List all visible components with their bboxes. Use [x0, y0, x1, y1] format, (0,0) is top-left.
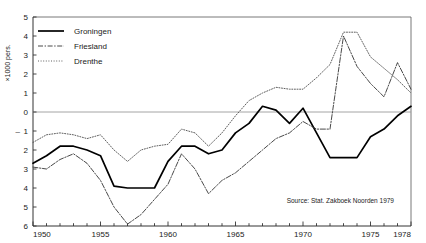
y-axis-negative-sign: –	[16, 127, 21, 136]
legend-label-groningen: Groningen	[74, 27, 111, 36]
legend-label-friesland: Friesland	[74, 42, 107, 51]
y-axis-tick-label: 4	[24, 184, 29, 193]
series-line-groningen	[33, 106, 411, 188]
x-axis-tick-label: 1975	[362, 230, 380, 239]
legend-label-drenthe: Drenthe	[74, 57, 103, 66]
x-axis-tick-label: 1960	[159, 230, 177, 239]
y-axis-tick-label: 1	[24, 127, 29, 136]
source-note: Source: Stat. Zakboek Noorden 1979	[287, 197, 395, 204]
x-axis-tick-label: 1965	[227, 230, 245, 239]
y-axis-tick-label: 4	[24, 32, 29, 41]
series-line-drenthe	[33, 32, 411, 161]
y-axis-tick-label: 2	[24, 146, 29, 155]
y-axis-tick-label: 5	[24, 13, 29, 22]
y-axis-tick-label: 1	[24, 89, 29, 98]
y-axis-title: ×1000 pers.	[4, 44, 12, 81]
x-axis-tick-label: 1955	[92, 230, 110, 239]
y-axis-tick-label: 3	[24, 51, 29, 60]
y-axis-tick-label: 5	[24, 203, 29, 212]
chart-canvas: 5432101–23456195019551960196519701975197…	[0, 0, 426, 243]
x-axis-tick-label: 1978	[393, 230, 411, 239]
y-axis-tick-label: 0	[24, 108, 29, 117]
line-chart: 5432101–23456195019551960196519701975197…	[0, 0, 426, 243]
x-axis-tick-label: 1970	[294, 230, 312, 239]
y-axis-tick-label: 2	[24, 70, 29, 79]
y-axis-tick-label: 3	[24, 165, 29, 174]
x-axis-tick-label: 1950	[33, 230, 51, 239]
y-axis-tick-label: 6	[24, 222, 29, 231]
